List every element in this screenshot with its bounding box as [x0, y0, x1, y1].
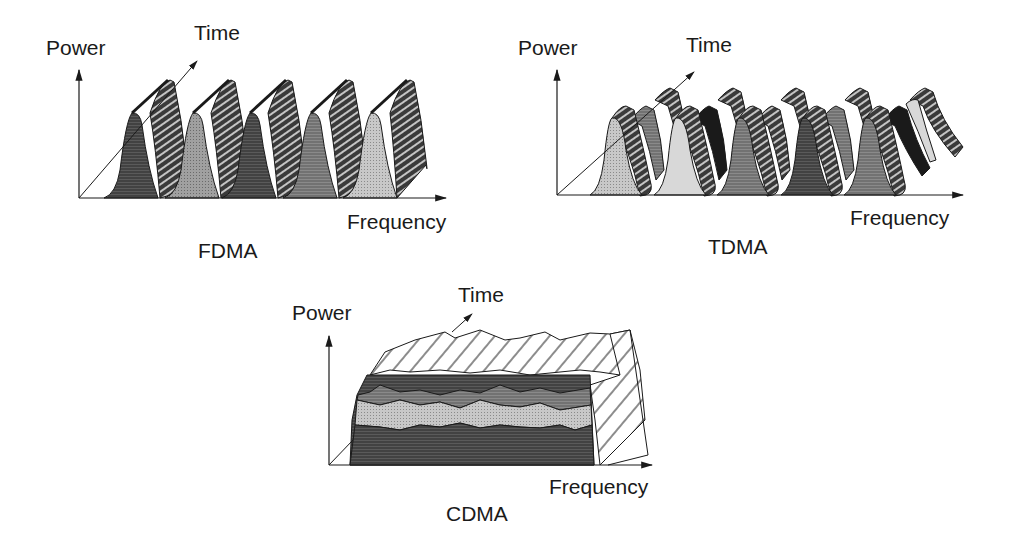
- cdma-block: [350, 330, 648, 465]
- tdma-channels: [590, 88, 963, 196]
- tdma-frequency-label: Frequency: [850, 206, 950, 229]
- cdma-time-axis: [329, 440, 353, 465]
- fdma-time-label: Time: [194, 21, 240, 44]
- cdma-panel: Power Time Frequency CDMA: [292, 283, 652, 525]
- tdma-title: TDMA: [708, 235, 768, 258]
- cdma-time-label: Time: [458, 283, 504, 306]
- tdma-time-label: Time: [686, 33, 732, 56]
- fdma-panel: Power Time Frequency FDMA: [46, 21, 447, 262]
- cdma-time-axis-tip: [452, 314, 472, 332]
- fdma-power-label: Power: [46, 36, 106, 59]
- cdma-power-label: Power: [292, 301, 352, 324]
- cdma-frequency-label: Frequency: [549, 475, 649, 498]
- fdma-title: FDMA: [198, 239, 258, 262]
- tdma-power-label: Power: [518, 36, 578, 59]
- fdma-frequency-label: Frequency: [347, 210, 447, 233]
- multiple-access-diagram: Power Time Frequency FDMA: [0, 0, 1016, 557]
- tdma-panel: Power Time Frequency TDMA: [518, 33, 963, 258]
- cdma-title: CDMA: [446, 502, 508, 525]
- fdma-channels: [104, 80, 427, 198]
